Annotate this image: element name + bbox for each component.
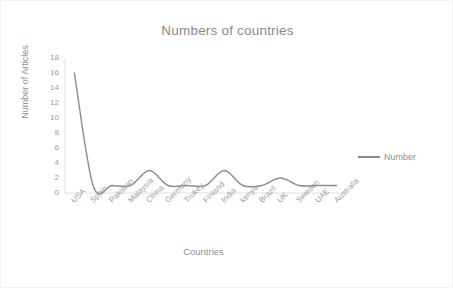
y-tick-label: 12 — [37, 99, 59, 107]
y-tick-label: 10 — [37, 114, 59, 122]
chart-container: Numbers of countries Number of Articles … — [0, 0, 453, 288]
chart-legend: Number — [358, 152, 416, 162]
y-tick-label: 14 — [37, 84, 59, 92]
y-tick-label: 2 — [37, 174, 59, 182]
axis-lines — [65, 58, 346, 193]
x-axis-title: Countries — [61, 246, 346, 257]
y-tick-label: 0 — [37, 189, 59, 197]
y-tick-label: 18 — [37, 54, 59, 62]
y-tick-label: 16 — [37, 69, 59, 77]
legend-line-swatch — [358, 156, 380, 158]
y-tick-label: 8 — [37, 129, 59, 137]
y-tick-label: 4 — [37, 159, 59, 167]
series-line-number — [74, 73, 336, 194]
legend-label-number: Number — [384, 152, 416, 162]
plot-area — [1, 1, 453, 288]
y-tick-label: 6 — [37, 144, 59, 152]
